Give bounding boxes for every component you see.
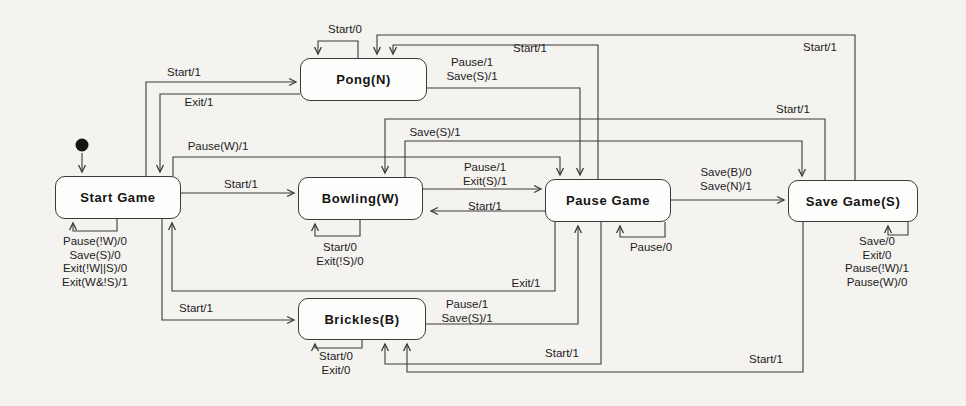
self-loop-label-line: Exit(W&!S)/1 xyxy=(62,276,128,290)
self-loop-label-line: Save(S)/0 xyxy=(62,249,128,263)
transition-label-line: Pause/1 xyxy=(463,161,507,175)
transition-label-start-to-pause: Pause(W)/1 xyxy=(188,140,249,154)
transition-label-line: Pause/1 xyxy=(446,56,497,70)
state-brickles: Brickles(B) xyxy=(298,298,426,340)
self-loop-pong xyxy=(318,41,358,58)
transition-label-pause-to-start: Exit/1 xyxy=(512,277,541,291)
self-loop-label-line: Pause(!W)/1 xyxy=(845,262,909,276)
state-pong: Pong(N) xyxy=(300,58,427,101)
self-loop-label-start-game: Pause(!W)/0 Save(S)/0 Exit(!W||S)/0 Exit… xyxy=(62,235,128,289)
edge-pong-to-start xyxy=(160,94,300,172)
transition-label-pause-to-brickles: Start/1 xyxy=(545,347,579,361)
transition-label-line: Save(N)/1 xyxy=(700,180,752,194)
self-loop-label-brickles: Start/0 Exit/0 xyxy=(319,350,353,377)
self-loop-label-line: Pause(W)/0 xyxy=(845,276,909,290)
state-bowling: Bowling(W) xyxy=(298,177,423,220)
transition-label-line: Save(S)/1 xyxy=(441,312,492,326)
transition-label-pause-to-pong: Start/1 xyxy=(513,42,547,56)
self-loop-label-line: Save/0 xyxy=(845,235,909,249)
edge-save-to-brickles xyxy=(407,222,803,372)
transition-label-pong-to-pause: Pause/1 Save(S)/1 xyxy=(446,56,497,83)
state-diagram: Start Game Pong(N) Bowling(W) Brickles(B… xyxy=(0,0,966,406)
self-loop-start-game xyxy=(73,219,117,231)
self-loop-label-pause-game: Pause/0 xyxy=(630,241,672,255)
edge-pause-to-brickles xyxy=(385,222,601,364)
transition-label-save-to-bowling: Start/1 xyxy=(776,103,810,117)
self-loop-label-line: Pause(!W)/0 xyxy=(62,235,128,249)
transition-label-line: Exit(S)/1 xyxy=(463,175,507,189)
self-loop-label-save-game: Save/0 Exit/0 Pause(!W)/1 Pause(W)/0 xyxy=(845,235,909,289)
self-loop-label-line: Start/0 xyxy=(316,241,363,255)
self-loop-label-line: Exit(!W||S)/0 xyxy=(62,262,128,276)
self-loop-pause-game xyxy=(620,222,665,237)
transition-label-line: Save(B)/0 xyxy=(700,166,752,180)
transition-label-bowling-to-pause: Pause/1 Exit(S)/1 xyxy=(463,161,507,188)
edge-start-to-pong xyxy=(146,82,296,176)
state-start-game: Start Game xyxy=(55,176,181,219)
transition-label-start-to-pong: Start/1 xyxy=(167,66,201,80)
self-loop-label-pong: Start/0 xyxy=(328,23,362,37)
transition-label-pause-to-save: Save(B)/0 Save(N)/1 xyxy=(700,166,752,193)
transition-label-line: Pause/1 xyxy=(441,298,492,312)
self-loop-label-line: Exit/0 xyxy=(845,249,909,263)
transition-label-save-to-pong: Start/1 xyxy=(803,41,837,55)
self-loop-bowling xyxy=(315,220,360,236)
self-loop-label-line: Exit(!S)/0 xyxy=(316,255,363,269)
transition-label-bowling-to-save: Save(S)/1 xyxy=(409,126,460,140)
state-pause-game: Pause Game xyxy=(545,179,671,222)
transition-label-pong-to-start: Exit/1 xyxy=(185,96,214,110)
transition-label-brickles-to-pause: Pause/1 Save(S)/1 xyxy=(441,298,492,325)
initial-state-dot xyxy=(76,139,89,152)
self-loop-brickles xyxy=(315,340,362,348)
self-loop-save-game xyxy=(888,222,908,235)
state-save-game: Save Game(S) xyxy=(788,180,918,222)
transition-label-line: Save(S)/1 xyxy=(446,70,497,84)
transition-label-pause-to-bowling: Start/1 xyxy=(468,200,502,214)
self-loop-label-bowling: Start/0 Exit(!S)/0 xyxy=(316,241,363,268)
transition-label-start-to-bowling: Start/1 xyxy=(224,178,258,192)
self-loop-label-line: Start/0 xyxy=(319,350,353,364)
self-loop-label-line: Exit/0 xyxy=(319,364,353,378)
transition-label-save-to-brickles: Start/1 xyxy=(749,353,783,367)
transition-label-start-to-brickles: Start/1 xyxy=(179,302,213,316)
